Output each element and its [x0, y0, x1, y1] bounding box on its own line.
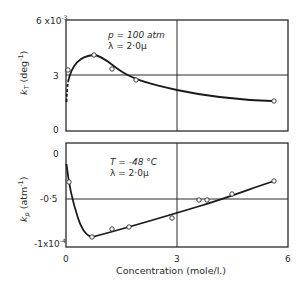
x-axis-label: Concentration (mole/l.) [116, 265, 226, 276]
bottom-ytick-05: -0·5 [40, 194, 58, 204]
top-ytick-0: 0 [53, 125, 59, 135]
data-point [66, 68, 70, 72]
top-y-axis-label: kT (deg-1) [17, 51, 31, 95]
top-annotation-wavelength: λ = 2·0μ [108, 41, 147, 51]
data-point [110, 227, 114, 231]
bottom-annotation-wavelength: λ = 2·0μ [110, 168, 149, 178]
top-annotation-pressure: p = 100 atm [107, 30, 165, 40]
data-point [205, 198, 209, 202]
bottom-panel: 0 -0·5 -1x10-4 kp (atm-1) T = -48 °C λ =… [17, 143, 291, 276]
top-panel: 6 x10-3 3 0 kT (deg-1) p = 100 atm λ = 2… [17, 14, 288, 135]
bottom-y-axis-label: kp (atm-1) [17, 177, 31, 222]
data-point [67, 180, 71, 184]
chart: 6 x10-3 3 0 kT (deg-1) p = 100 atm λ = 2… [0, 0, 301, 284]
xtick-0: 0 [63, 254, 69, 264]
bottom-data-points [67, 179, 276, 239]
bottom-fitted-curve [67, 164, 275, 237]
data-point [110, 67, 114, 71]
data-point [230, 192, 234, 196]
data-point [170, 216, 174, 220]
data-point [134, 78, 138, 82]
top-data-points [66, 53, 276, 103]
top-fitted-curve [68, 55, 272, 101]
bottom-annotation-temperature: T = -48 °C [110, 157, 158, 167]
data-point [92, 53, 96, 57]
top-curve-dashed-start [67, 82, 69, 102]
data-point [127, 225, 131, 229]
data-point [272, 179, 276, 183]
bottom-ytick-1: -1x10-4 [34, 237, 66, 249]
data-point [197, 198, 201, 202]
xtick-6: 6 [285, 254, 291, 264]
xtick-3: 3 [174, 254, 180, 264]
data-point [90, 235, 94, 239]
bottom-ytick-0: 0 [53, 149, 59, 159]
data-point [272, 99, 276, 103]
top-ytick-3: 3 [53, 71, 59, 81]
top-ytick-6: 6 x10-3 [36, 14, 68, 26]
